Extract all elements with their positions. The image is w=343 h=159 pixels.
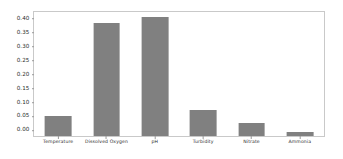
y-axis-tick-mark [32, 32, 35, 33]
bar [45, 116, 72, 136]
bar [190, 110, 217, 136]
x-axis-tick: Temperature [43, 136, 73, 145]
y-axis-tick: 0.30 [17, 44, 34, 50]
y-axis-tick-label: 0.25 [17, 58, 32, 64]
y-axis-tick-label: 0.20 [17, 72, 32, 78]
bar [93, 23, 120, 136]
y-axis-tick: 0.25 [17, 58, 34, 64]
y-axis-tick-mark [32, 18, 35, 19]
x-axis-tick: Ammonia [289, 136, 312, 145]
y-axis-tick-label: 0.35 [17, 30, 32, 36]
x-axis-tick-label: Dissolved Oxygen [85, 140, 128, 145]
y-axis-tick-mark [32, 102, 35, 103]
plot-axes: 0.000.050.100.150.200.250.300.350.40Temp… [33, 11, 325, 137]
plot-area: 0.000.050.100.150.200.250.300.350.40Temp… [34, 12, 324, 136]
y-axis-tick: 0.10 [17, 100, 34, 106]
y-axis-tick-label: 0.40 [17, 16, 32, 22]
x-axis-tick-label: Temperature [43, 140, 73, 145]
y-axis-tick: 0.05 [17, 114, 34, 120]
x-axis-tick-label: pH [152, 140, 159, 145]
y-axis-tick-mark [32, 116, 35, 117]
x-axis-tick-label: Ammonia [289, 140, 312, 145]
y-axis-tick: 0.15 [17, 86, 34, 92]
bar [238, 123, 265, 136]
y-axis-tick-label: 0.10 [17, 100, 32, 106]
y-axis-tick-label: 0.05 [17, 114, 32, 120]
y-axis-tick-mark [32, 130, 35, 131]
y-axis-tick-mark [32, 46, 35, 47]
y-axis-tick-mark [32, 74, 35, 75]
y-axis-tick-label: 0.30 [17, 44, 32, 50]
bar [141, 17, 168, 136]
y-axis-tick-mark [32, 60, 35, 61]
y-axis-tick: 0.35 [17, 30, 34, 36]
x-axis-tick: Turbidity [193, 136, 214, 145]
y-axis-tick: 0.40 [17, 16, 34, 22]
y-axis-tick: 0.00 [17, 128, 34, 134]
y-axis-tick: 0.20 [17, 72, 34, 78]
y-axis-tick-mark [32, 88, 35, 89]
x-axis-tick: Nitrate [243, 136, 260, 145]
x-axis-tick: pH [152, 136, 159, 145]
y-axis-tick-label: 0.00 [17, 128, 32, 134]
x-axis-tick-label: Turbidity [193, 140, 214, 145]
x-axis-tick: Dissolved Oxygen [85, 136, 128, 145]
y-axis-tick-label: 0.15 [17, 86, 32, 92]
bar-chart-figure: 0.000.050.100.150.200.250.300.350.40Temp… [0, 0, 343, 159]
x-axis-tick-label: Nitrate [243, 140, 260, 145]
